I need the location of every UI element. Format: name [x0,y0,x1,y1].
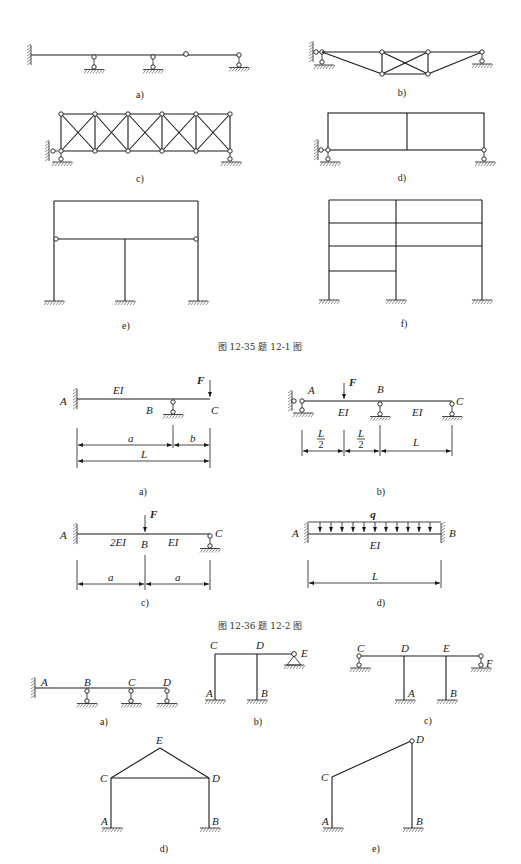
fig37-c-node-B: B [450,687,457,699]
figure-canvas: a) b) [0,0,521,864]
fig36-b-dim3: L [412,436,419,448]
fig35-d-label: d) [398,172,406,184]
fig37-c-node-C: C [357,642,365,654]
fig37-b-node-C: C [210,639,218,651]
fig36-a-label: a) [139,486,147,498]
fig37-c-node-D: D [400,642,409,654]
fig36-b-node-C: C [456,395,464,407]
fig36-a-EI: EI [112,384,125,396]
distributed-load-arrows [320,522,430,532]
fig36-b-node-A: A [307,384,315,396]
fig35-e-diagram: e) [44,201,209,332]
fig36-c-label: c) [141,597,149,609]
fig36-b-EI-left: EI [337,406,350,418]
fig35-e-label: e) [122,320,130,332]
fig36-a-force-F: F [196,374,205,386]
figure-12-36-caption: 图 12-36 题 12-2 图 [218,621,303,631]
fig37-c-node-A: A [407,687,415,699]
fig37-e-node-D: D [415,733,424,745]
fig37-a-diagram: A B C D a) [31,676,178,728]
fig35-f-label: f) [401,318,408,330]
fig36-c-EI-right: EI [167,536,180,548]
fig36-a-node-C: C [211,404,219,416]
fig36-a-dim-a: a [128,432,134,444]
fig36-b-dim2-num: L [357,427,364,439]
fig37-d-node-D: D [211,772,220,784]
fig36-c-diagram: F A 2EI B EI C a a c) [59,508,223,609]
fig37-d-diagram: E C D A B d) [100,734,221,855]
fig35-f-diagram: f) [319,200,493,330]
fig37-a-node-A: A [40,676,48,688]
fig36-c-force-F: F [149,508,158,520]
fig37-c-diagram: C D E F A B c) [350,642,493,727]
fig37-e-node-A: A [321,815,329,827]
fig37-d-node-C: C [100,772,108,784]
fig36-b-dim2-den: 2 [359,439,364,450]
fig37-b-diagram: C D E A B b) [205,639,308,728]
fig36-a-node-A: A [59,395,67,407]
fig36-d-load-q: q [370,508,376,520]
fig37-c-node-F: F [485,657,493,669]
fig37-b-node-E: E [300,647,308,659]
fig35-c-label: c) [136,173,144,185]
fig37-b-node-B: B [261,687,268,699]
fig36-c-node-B: B [141,538,148,550]
fig35-d-diagram: d) [314,113,496,184]
fig36-d-dim-L: L [371,570,378,582]
fig35-b-diagram: b) [309,41,493,99]
fig36-d-label: d) [377,597,385,609]
fig36-d-diagram: q A B EI L d) [291,508,456,609]
fig36-c-node-C: C [215,527,223,539]
figure-12-35-caption: 图 12-35 题 12-1 图 [218,342,303,352]
fig35-a-label: a) [136,89,144,101]
fig37-a-label: a) [100,716,108,728]
fig37-e-label: e) [372,843,380,855]
fig37-d-node-E: E [155,734,163,746]
fig37-c-label: c) [424,715,432,727]
fig35-a-diagram: a) [27,44,250,101]
fig36-b-label: b) [377,486,385,498]
fig37-e-diagram: C D A B e) [321,733,424,855]
fig36-d-node-B: B [449,527,456,539]
fig36-c-dim2: a [175,571,181,583]
fig36-d-EI: EI [369,539,382,551]
fig35-b-label: b) [398,87,406,99]
fig35-c-diagram: c) [45,112,242,185]
fig37-c-node-E: E [442,642,450,654]
fig37-e-node-B: B [416,815,423,827]
fig37-d-node-B: B [212,815,219,827]
fig37-e-node-C: C [321,771,329,783]
fig37-a-node-C: C [128,676,136,688]
fig37-b-node-A: A [205,687,213,699]
fig36-b-diagram: A F B C EI EI L 2 L 2 L b) [288,376,464,498]
fig36-d-node-A: A [291,527,299,539]
fig37-b-node-D: D [255,639,264,651]
fig37-b-label: b) [254,716,262,728]
fig36-b-force-F: F [348,376,357,388]
fig36-c-EI-left: 2EI [110,536,127,548]
fig37-d-label: d) [160,843,168,855]
fig36-b-dim1-num: L [317,427,324,439]
fig36-c-node-A: A [59,529,67,541]
fig36-b-EI-right: EI [411,406,424,418]
fig37-a-node-B: B [84,676,91,688]
fig37-d-node-A: A [100,815,108,827]
fig36-a-dim-b: b [190,432,196,444]
fig36-b-node-B: B [377,383,384,395]
fig36-b-dim1-den: 2 [319,439,324,450]
fig36-a-diagram: A EI B C F a b L a) [59,374,219,498]
fig36-a-dim-L: L [140,448,147,460]
fig36-a-node-B: B [146,404,153,416]
fig36-c-dim1: a [108,571,114,583]
fig37-a-node-D: D [162,676,171,688]
